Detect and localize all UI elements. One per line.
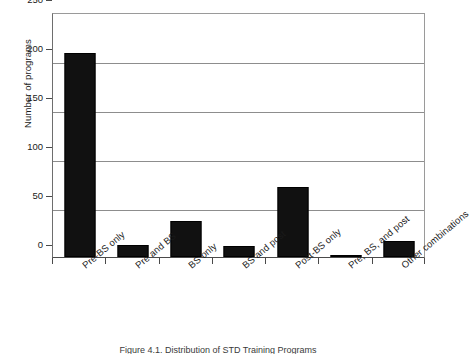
y-tick-label: 250	[27, 0, 43, 5]
figure-caption: Figure 4.1. Distribution of STD Training…	[0, 345, 436, 354]
y-tick-label: 0	[38, 239, 43, 250]
bar-slot	[106, 14, 159, 257]
y-tick-label: 150	[27, 92, 43, 103]
bar-slot	[319, 14, 372, 257]
bar[interactable]	[277, 187, 308, 257]
bar-slot	[160, 14, 213, 257]
y-tick-mark	[46, 0, 52, 1]
plot-area	[52, 13, 425, 258]
y-tick-label: 50	[32, 190, 43, 201]
y-axis-ticks: 050100150200250	[0, 0, 52, 245]
x-axis-labels: Pre-BS onlyPre and BSBS onlyBS and postP…	[0, 262, 436, 342]
bar-slot	[53, 14, 106, 257]
bar-slot	[213, 14, 266, 257]
bar-series	[53, 14, 424, 257]
y-tick-label: 100	[27, 141, 43, 152]
bar-slot	[266, 14, 319, 257]
y-tick-label: 200	[27, 43, 43, 54]
bar[interactable]	[64, 53, 95, 257]
